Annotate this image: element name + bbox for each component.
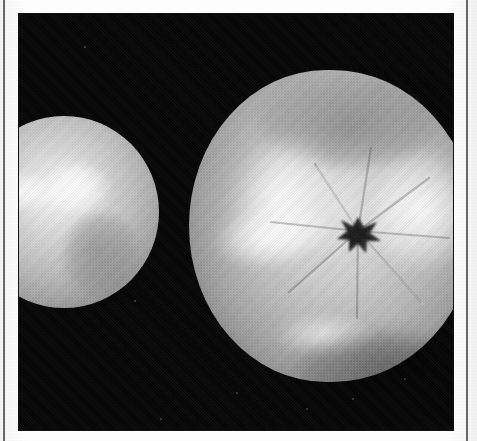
fruit-left-highlight-b	[49, 164, 111, 216]
fruit-right-shadow-bottom	[295, 334, 453, 412]
scanned-page	[0, 0, 477, 441]
dust-speck	[134, 300, 136, 302]
dust-speck	[352, 398, 354, 400]
fruit-left-shadow	[65, 214, 139, 298]
dust-speck	[84, 46, 86, 48]
dust-speck	[160, 418, 162, 420]
dust-speck	[236, 392, 238, 394]
dust-speck	[306, 408, 308, 410]
right-page-rule	[466, 0, 468, 441]
fruit-photograph	[19, 14, 453, 430]
dust-speck	[404, 378, 406, 380]
left-page-rule	[3, 0, 5, 441]
